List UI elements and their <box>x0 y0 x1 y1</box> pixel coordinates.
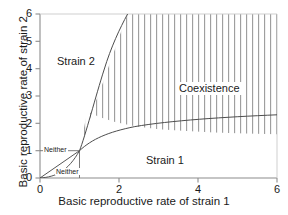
y-axis-title: Basic reproductive rate of strain 2 <box>18 12 30 192</box>
x-tick-label-2: 2 <box>109 184 129 195</box>
x-tick-label-4: 4 <box>188 184 208 195</box>
region-label-coexistence: Coexistence <box>176 82 243 95</box>
x-tick-label-0: 0 <box>30 184 50 195</box>
x-axis-ticks <box>40 178 277 183</box>
region-label-strain-1: Strain 1 <box>146 155 184 166</box>
region-label-neither-lower: Neither <box>55 168 80 175</box>
x-tick-label-6: 6 <box>267 184 287 195</box>
phase-diagram-figure <box>0 0 288 215</box>
region-label-neither-upper: Neither <box>43 146 68 153</box>
y-axis-ticks <box>36 14 41 178</box>
x-axis-title: Basic reproductive rate of strain 1 <box>0 196 288 208</box>
region-label-strain-2: Strain 2 <box>57 56 95 67</box>
